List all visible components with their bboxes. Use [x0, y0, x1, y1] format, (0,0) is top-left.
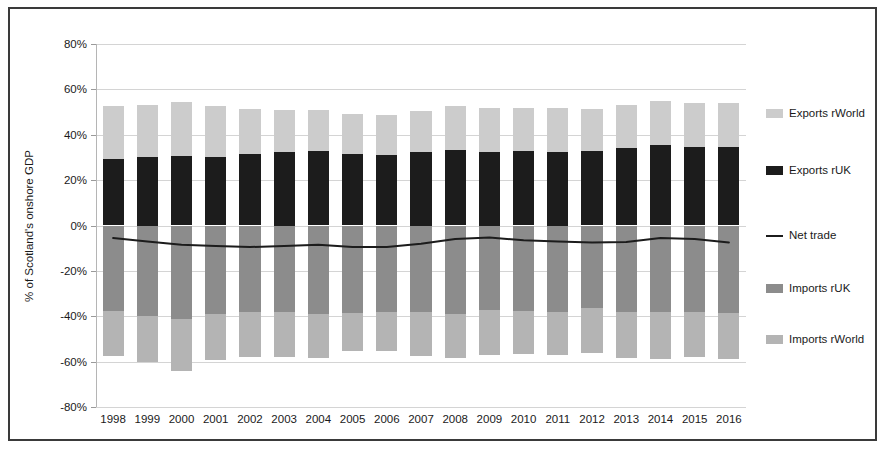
bar-segment-imports-rworld[interactable]	[513, 311, 534, 354]
bar-segment-imports-rworld[interactable]	[445, 314, 466, 358]
bar-segment-exports-rworld[interactable]	[274, 110, 295, 152]
bar-segment-imports-ruk[interactable]	[547, 226, 568, 312]
bar-segment-imports-rworld[interactable]	[616, 312, 637, 357]
bar-segment-imports-rworld[interactable]	[581, 308, 602, 353]
bar-segment-imports-rworld[interactable]	[205, 314, 226, 361]
legend-item[interactable]: Exports rWorld	[766, 107, 865, 119]
bar-group[interactable]	[103, 44, 124, 407]
bar-segment-imports-rworld[interactable]	[137, 316, 158, 361]
bar-segment-exports-ruk[interactable]	[171, 156, 192, 226]
bar-group[interactable]	[479, 44, 500, 407]
bar-segment-exports-rworld[interactable]	[103, 106, 124, 158]
bar-segment-exports-ruk[interactable]	[616, 148, 637, 225]
bar-segment-exports-rworld[interactable]	[445, 106, 466, 150]
bar-segment-exports-ruk[interactable]	[581, 151, 602, 225]
bar-segment-imports-ruk[interactable]	[274, 226, 295, 313]
bar-group[interactable]	[410, 44, 431, 407]
bar-segment-exports-ruk[interactable]	[103, 159, 124, 226]
bar-group[interactable]	[137, 44, 158, 407]
bar-segment-exports-rworld[interactable]	[376, 115, 397, 155]
bar-segment-imports-rworld[interactable]	[376, 312, 397, 352]
bar-segment-imports-ruk[interactable]	[171, 226, 192, 319]
bar-segment-imports-ruk[interactable]	[410, 226, 431, 312]
bar-segment-imports-ruk[interactable]	[616, 226, 637, 313]
legend-item[interactable]: Exports rUK	[766, 164, 851, 176]
bar-segment-imports-ruk[interactable]	[205, 226, 226, 314]
bar-segment-exports-ruk[interactable]	[239, 154, 260, 226]
bar-group[interactable]	[547, 44, 568, 407]
bar-segment-exports-ruk[interactable]	[547, 152, 568, 226]
bar-group[interactable]	[205, 44, 226, 407]
bar-segment-imports-rworld[interactable]	[684, 312, 705, 356]
legend-item[interactable]: Imports rWorld	[766, 333, 864, 345]
bar-segment-imports-ruk[interactable]	[239, 226, 260, 313]
bar-segment-exports-ruk[interactable]	[376, 155, 397, 225]
bar-segment-imports-ruk[interactable]	[513, 226, 534, 311]
bar-group[interactable]	[274, 44, 295, 407]
bar-group[interactable]	[171, 44, 192, 407]
bar-segment-imports-ruk[interactable]	[718, 226, 739, 313]
bar-segment-imports-rworld[interactable]	[718, 313, 739, 360]
bar-segment-imports-rworld[interactable]	[479, 310, 500, 355]
bar-segment-exports-rworld[interactable]	[342, 114, 363, 154]
legend-item[interactable]: Net trade	[766, 229, 836, 241]
bar-segment-exports-rworld[interactable]	[239, 109, 260, 154]
bar-segment-exports-rworld[interactable]	[616, 105, 637, 149]
bar-segment-exports-ruk[interactable]	[718, 147, 739, 226]
bar-segment-exports-ruk[interactable]	[274, 152, 295, 226]
bar-segment-exports-rworld[interactable]	[547, 108, 568, 152]
bar-group[interactable]	[650, 44, 671, 407]
legend-item[interactable]: Imports rUK	[766, 282, 850, 294]
bar-group[interactable]	[513, 44, 534, 407]
bar-segment-exports-ruk[interactable]	[137, 157, 158, 225]
bar-segment-imports-ruk[interactable]	[479, 226, 500, 311]
bar-group[interactable]	[239, 44, 260, 407]
bar-segment-exports-rworld[interactable]	[718, 103, 739, 147]
bar-segment-imports-ruk[interactable]	[650, 226, 671, 313]
bar-segment-exports-rworld[interactable]	[650, 101, 671, 145]
bar-segment-exports-rworld[interactable]	[308, 110, 329, 151]
bar-segment-imports-rworld[interactable]	[308, 314, 329, 358]
bar-segment-exports-ruk[interactable]	[205, 157, 226, 226]
bar-segment-exports-rworld[interactable]	[684, 103, 705, 146]
bar-segment-imports-ruk[interactable]	[342, 226, 363, 313]
bar-segment-imports-rworld[interactable]	[547, 312, 568, 355]
bar-segment-exports-ruk[interactable]	[513, 151, 534, 225]
bar-segment-exports-ruk[interactable]	[650, 145, 671, 225]
bar-segment-imports-rworld[interactable]	[171, 319, 192, 371]
bar-segment-imports-rworld[interactable]	[650, 312, 671, 359]
bar-group[interactable]	[308, 44, 329, 407]
bar-group[interactable]	[616, 44, 637, 407]
bar-segment-exports-ruk[interactable]	[479, 152, 500, 226]
bar-segment-imports-rworld[interactable]	[103, 311, 124, 356]
bar-segment-exports-rworld[interactable]	[513, 108, 534, 152]
bar-group[interactable]	[581, 44, 602, 407]
bar-segment-imports-ruk[interactable]	[445, 226, 466, 314]
bar-group[interactable]	[376, 44, 397, 407]
bar-segment-imports-ruk[interactable]	[684, 226, 705, 313]
bar-segment-imports-ruk[interactable]	[376, 226, 397, 312]
bar-segment-exports-rworld[interactable]	[410, 111, 431, 152]
bar-segment-exports-rworld[interactable]	[171, 102, 192, 156]
bar-segment-imports-rworld[interactable]	[342, 313, 363, 352]
bar-segment-imports-rworld[interactable]	[274, 312, 295, 356]
bar-segment-exports-ruk[interactable]	[445, 150, 466, 226]
bar-segment-exports-rworld[interactable]	[205, 106, 226, 157]
bar-segment-exports-rworld[interactable]	[479, 108, 500, 152]
bar-segment-imports-ruk[interactable]	[581, 226, 602, 308]
bar-segment-imports-ruk[interactable]	[308, 226, 329, 314]
bar-segment-imports-ruk[interactable]	[137, 226, 158, 317]
bar-segment-exports-ruk[interactable]	[308, 151, 329, 226]
bar-segment-imports-rworld[interactable]	[410, 312, 431, 356]
bar-segment-exports-rworld[interactable]	[137, 105, 158, 157]
bar-segment-exports-rworld[interactable]	[581, 109, 602, 152]
bar-segment-imports-rworld[interactable]	[239, 312, 260, 356]
bar-group[interactable]	[445, 44, 466, 407]
bar-group[interactable]	[342, 44, 363, 407]
bar-segment-imports-ruk[interactable]	[103, 226, 124, 311]
bar-group[interactable]	[684, 44, 705, 407]
bar-group[interactable]	[718, 44, 739, 407]
bar-segment-exports-ruk[interactable]	[342, 154, 363, 225]
bar-segment-exports-ruk[interactable]	[684, 147, 705, 226]
bar-segment-exports-ruk[interactable]	[410, 152, 431, 226]
